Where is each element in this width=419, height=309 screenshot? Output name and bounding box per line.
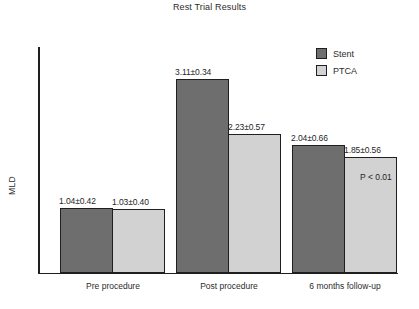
bar-group: 2.04±0.66 1.85±0.56 [292,48,398,273]
bar-value-label-ptca: 1.85±0.56 [344,145,381,155]
y-axis-title: MLD [7,176,17,195]
plot-area: MLD 1.04±0.42 1.03±0.40 Pre procedure 3.… [38,47,398,274]
legend: Stent PTCA [316,45,357,79]
bar-stent[interactable] [60,208,113,273]
bar-value-label-ptca: 1.03±0.40 [112,197,149,207]
bar-ptca[interactable] [228,134,281,273]
category-label-1: Post procedure [176,281,282,291]
bar-stent[interactable] [292,145,345,273]
legend-swatch-stent [316,48,327,59]
legend-swatch-ptca [316,65,327,76]
p-value-annotation: P < 0.01 [360,172,392,182]
bar-value-label-stent: 3.11±0.34 [175,67,211,77]
legend-item-ptca[interactable]: PTCA [316,62,357,79]
bar-value-label-stent: 2.04±0.66 [291,133,328,143]
bar-group: 1.04±0.42 1.03±0.40 [60,48,166,273]
bar-stent[interactable] [176,79,229,273]
x-axis-line [38,273,398,275]
legend-item-stent[interactable]: Stent [316,45,357,62]
bar-ptca[interactable] [112,209,165,273]
bar-value-label-stent: 1.04±0.42 [59,196,96,206]
legend-label-ptca: PTCA [333,66,357,76]
chart-title: Rest Trial Results [0,2,419,12]
bar-group: 3.11±0.34 2.23±0.57 [176,48,282,273]
legend-label-stent: Stent [333,49,354,59]
category-label-2: 6 months follow-up [288,281,402,291]
bar-value-label-ptca: 2.23±0.57 [228,122,265,132]
chart-root: Rest Trial Results MLD 1.04±0.42 1.03±0.… [0,0,419,309]
y-axis-line [38,47,40,274]
category-label-0: Pre procedure [60,281,166,291]
